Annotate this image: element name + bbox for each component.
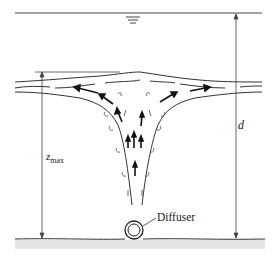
diffuser-icon: [125, 221, 143, 239]
flow-arrows: [74, 85, 210, 176]
water-surface-icon: [126, 17, 140, 23]
depth-label: d: [238, 118, 244, 133]
zmax-label-sub: max: [50, 156, 64, 165]
diffuser-label: Diffuser: [157, 211, 195, 223]
spreading-layer: [15, 72, 262, 205]
diffuser-leader-line: [143, 218, 156, 226]
zmax-label: zmax: [46, 150, 64, 165]
seabed-line: [15, 239, 265, 240]
bubble-plume-diagram: [0, 0, 278, 255]
sediment-layer: [15, 240, 265, 249]
